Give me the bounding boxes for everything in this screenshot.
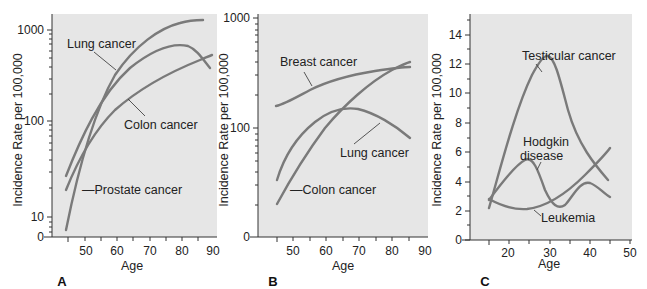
annotation-colon-cancer-b: —Colon cancer [290,183,376,197]
y-tick-label: 2 [455,204,462,218]
y-tick-label: 100 [230,121,250,135]
y-tick-label: 4 [455,175,462,189]
y-tick-label: 10 [449,86,463,100]
annotation-testicular-cancer: Testicular cancer [522,49,616,63]
x-tick-label: 80 [385,244,399,258]
y-tick-label: 6 [455,145,462,159]
x-tick-label: 50 [79,244,93,258]
plot-area-b [258,14,428,237]
x-tick-label: 90 [418,244,432,258]
y-tick-label: 8 [455,116,462,130]
y-tick-label: 10 [31,210,45,224]
x-tick-label: 70 [143,244,157,258]
chart-panel-c: 0 2 4 6 8 10 12 14 20 30 40 50 Age Incid… [430,14,637,289]
annotation-lung-cancer: Lung cancer [67,37,136,51]
x-tick-label: 60 [110,244,124,258]
y-tick-label: 0 [455,233,462,247]
x-axis-label: Age [538,257,560,271]
x-tick-label: 70 [352,244,366,258]
annotation-leukemia: Leukemia [541,211,595,225]
x-tick-label: 60 [319,244,333,258]
x-tick-label: 90 [206,244,220,258]
annotation-colon-cancer: Colon cancer [124,118,198,132]
x-tick-label: 40 [583,246,597,260]
y-tick-label: 12 [449,57,463,71]
y-tick-label: 1000 [17,23,44,37]
plot-area-c [470,14,632,240]
panel-label-c: C [480,274,490,289]
y-tick-label: 100 [24,114,44,128]
x-tick-label: 20 [501,246,515,260]
annotation-breast-cancer: Breast cancer [280,55,357,69]
chart-panel-b: 1000 100 0 50 60 70 80 90 Age Incidence … [217,11,432,289]
annotation-hodgkin: Hodgkin [523,135,569,149]
panel-label-a: A [57,274,67,289]
y-tick-label: 1000 [223,11,250,25]
y-axis-label: Incidence Rate per 100,000 [217,53,231,207]
x-tick-label: 50 [286,244,300,258]
figure: 1000 100 10 0 50 60 70 80 90 Age Inciden… [0,0,647,289]
annotation-disease: disease [520,149,563,163]
y-axis-label: Incidence Rate per 100,000 [11,53,25,207]
x-axis-label: Age [332,259,354,273]
y-tick-label: 0 [243,230,250,244]
y-tick-label: 0 [37,230,44,244]
annotation-lung-cancer-b: Lung cancer [340,146,409,160]
annotation-prostate-cancer: —Prostate cancer [82,183,182,197]
chart-panel-a: 1000 100 10 0 50 60 70 80 90 Age Inciden… [11,14,220,289]
x-axis-label: Age [121,259,143,273]
y-axis-label: Incidence Rate per 100,000 [430,53,444,207]
panel-label-b: B [268,274,277,289]
x-tick-label: 80 [175,244,189,258]
x-tick-label: 50 [623,246,637,260]
y-tick-label: 14 [449,28,463,42]
